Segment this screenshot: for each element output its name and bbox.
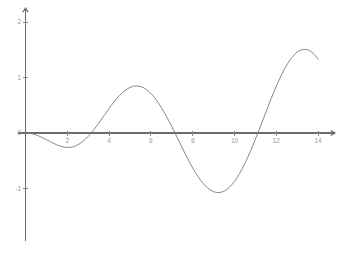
- chart-canvas: 2468101214 210-1: [0, 0, 337, 256]
- x-tick-label: 10: [231, 137, 239, 144]
- y-tick-label: 2: [17, 18, 21, 25]
- y-tick-label: -1: [15, 185, 21, 192]
- function-plot: 2468101214 210-1: [0, 0, 337, 256]
- curve-series: [26, 49, 319, 192]
- x-tick-label: 8: [191, 137, 195, 144]
- y-tick-label: 0: [17, 129, 21, 136]
- x-tick-label: 12: [273, 137, 281, 144]
- axes: [18, 8, 335, 241]
- function-curve: [26, 49, 319, 192]
- x-tick-label: 6: [149, 137, 153, 144]
- x-tick-label: 4: [107, 137, 111, 144]
- x-tick-label: 14: [314, 137, 322, 144]
- x-tick-label: 2: [65, 137, 69, 144]
- y-tick-label: 1: [17, 74, 21, 81]
